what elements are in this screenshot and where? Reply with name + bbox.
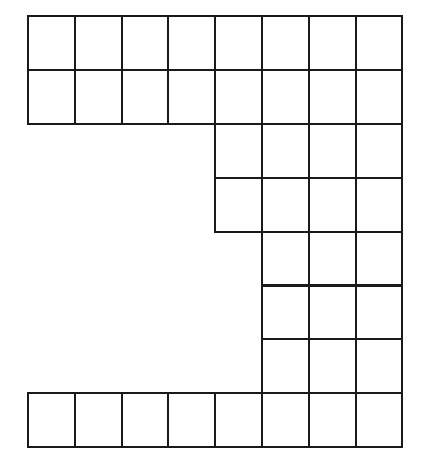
- grid-cell-r4-c7: [309, 178, 356, 232]
- grid-cell-r7-c7: [309, 339, 356, 393]
- grid-cell-r1-c8: [356, 16, 403, 70]
- grid-cell-r4-c6: [262, 178, 309, 232]
- grid-cell-r2-c7: [309, 70, 356, 124]
- grid-cell-r3-c6: [262, 124, 309, 178]
- grid-cell-r8-c6: [262, 393, 309, 447]
- grid-cell-r6-c6: [262, 286, 309, 340]
- grid-cell-r1-c5: [215, 16, 262, 70]
- grid-cell-r3-c8: [356, 124, 403, 178]
- grid-cell-r8-c7: [309, 393, 356, 447]
- grid-cell-r6-c8: [356, 286, 403, 340]
- grid-cell-r2-c5: [215, 70, 262, 124]
- grid-cell-r3-c5: [215, 124, 262, 178]
- grid-cell-r5-c6: [262, 232, 309, 286]
- grid-cell-r2-c6: [262, 70, 309, 124]
- grid-cell-r5-c7: [309, 232, 356, 286]
- grid-cell-r2-c1: [28, 70, 75, 124]
- grid-cell-r8-c3: [122, 393, 169, 447]
- grid-cell-r3-c7: [309, 124, 356, 178]
- grid-cell-r1-c6: [262, 16, 309, 70]
- grid-cell-r1-c1: [28, 16, 75, 70]
- grid-cells-layer: [28, 16, 402, 447]
- grid-cell-r5-c8: [356, 232, 403, 286]
- grid-cell-r8-c1: [28, 393, 75, 447]
- grid-cell-r4-c8: [356, 178, 403, 232]
- grid-svg: [0, 0, 422, 465]
- grid-cell-r2-c8: [356, 70, 403, 124]
- grid-cell-r1-c4: [168, 16, 215, 70]
- grid-cell-r8-c2: [75, 393, 122, 447]
- grid-cell-r2-c2: [75, 70, 122, 124]
- grid-cell-r2-c3: [122, 70, 169, 124]
- grid-cell-r1-c3: [122, 16, 169, 70]
- grid-cell-r8-c8: [356, 393, 403, 447]
- grid-cell-r8-c5: [215, 393, 262, 447]
- grid-cell-r1-c2: [75, 16, 122, 70]
- grid-cell-r1-c7: [309, 16, 356, 70]
- grid-cell-r2-c4: [168, 70, 215, 124]
- grid-cell-r4-c5: [215, 178, 262, 232]
- grid-cell-r7-c8: [356, 339, 403, 393]
- grid-cell-r8-c4: [168, 393, 215, 447]
- grid-cell-r6-c7: [309, 286, 356, 340]
- grid-cell-r7-c6: [262, 339, 309, 393]
- grid-figure: [0, 0, 422, 465]
